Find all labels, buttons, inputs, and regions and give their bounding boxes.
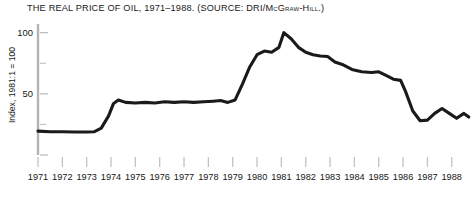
x-tick-label-1988: 1988	[437, 172, 467, 182]
plot-area: 10050 Index, 1981:1 = 100	[0, 18, 475, 168]
data-line-group	[0, 18, 475, 168]
y-axis-title: Index, 1981:1 = 100	[7, 29, 17, 141]
chart-figure: THE REAL PRICE OF OIL, 1971–1988. (SOURC…	[0, 0, 475, 197]
chart-title: THE REAL PRICE OF OIL, 1971–1988. (SOURC…	[27, 3, 324, 13]
x-axis-tick-labels: 1971197219731974197519761977197819791980…	[0, 172, 475, 192]
series-line-real-price-of-oil	[38, 33, 469, 132]
